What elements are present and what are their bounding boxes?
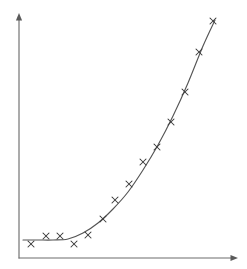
- plot-background: [0, 0, 247, 269]
- plot-canvas: [0, 0, 247, 269]
- chart-figure: [0, 0, 247, 269]
